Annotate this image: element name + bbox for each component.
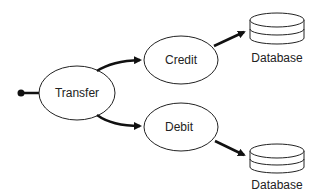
edge-credit-db xyxy=(214,32,244,46)
database-top-label: Database xyxy=(251,51,303,65)
node-credit[interactable]: Credit xyxy=(144,36,218,84)
node-credit-label: Credit xyxy=(165,53,198,67)
node-transfer[interactable]: Transfer xyxy=(39,66,115,120)
database-icon-top[interactable]: Database xyxy=(250,13,304,65)
node-debit-label: Debit xyxy=(165,120,194,134)
database-icon-bottom[interactable]: Database xyxy=(250,144,304,192)
database-bottom-label: Database xyxy=(251,178,303,192)
flow-diagram: Transfer Credit Debit Database Database xyxy=(0,0,320,193)
edge-transfer-credit xyxy=(97,60,140,71)
node-transfer-label: Transfer xyxy=(55,86,99,100)
edge-debit-db xyxy=(215,141,244,155)
edge-transfer-debit xyxy=(97,115,140,126)
node-debit[interactable]: Debit xyxy=(144,103,218,151)
start-point xyxy=(18,90,41,97)
